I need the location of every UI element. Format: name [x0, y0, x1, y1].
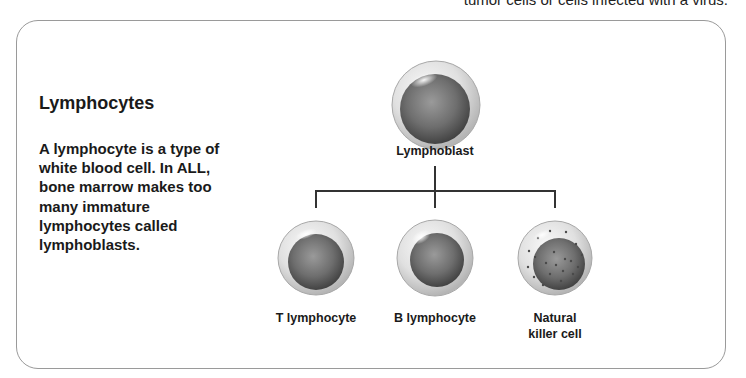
t-lymphocyte-label: T lymphocyte — [276, 310, 357, 326]
lymphoblast-cell-icon — [388, 57, 484, 153]
t-lymphocyte-cell-icon — [276, 218, 356, 298]
panel-description: A lymphocyte is a type of white blood ce… — [39, 139, 224, 254]
natural-killer-label: Natural killer cell — [528, 310, 582, 342]
natural-killer-label-line2: killer cell — [528, 326, 582, 342]
natural-killer-cell-icon — [516, 219, 594, 297]
clipped-caption-text: tumor cells or cells infected with a vir… — [0, 0, 746, 7]
b-lymphocyte-cell-icon — [395, 218, 475, 298]
natural-killer-label-line1: Natural — [528, 310, 582, 326]
lymphoblast-label: Lymphoblast — [396, 143, 473, 159]
tree-branch-right — [554, 190, 556, 208]
panel-heading: Lymphocytes — [39, 93, 154, 114]
tree-stem — [434, 166, 436, 208]
b-lymphocyte-label: B lymphocyte — [394, 310, 476, 326]
tree-branch-left — [315, 190, 317, 208]
tree-crossbar — [315, 190, 556, 192]
